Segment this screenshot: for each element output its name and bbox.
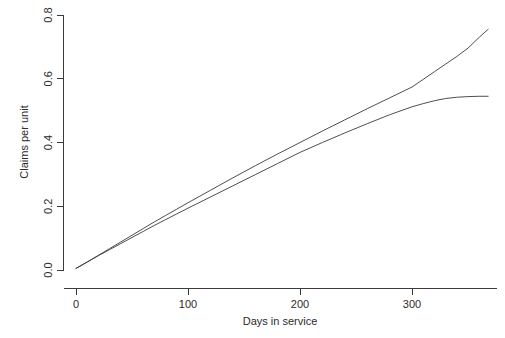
- x-tick-label: 0: [73, 298, 79, 310]
- y-tick-label: 0.0: [42, 262, 54, 277]
- y-tick-label: 0.8: [42, 7, 54, 22]
- chart-figure: 0.00.20.40.60.8 0100200300 Days in servi…: [0, 0, 505, 338]
- line-chart-canvas: 0.00.20.40.60.8 0100200300 Days in servi…: [0, 0, 505, 338]
- y-axis-title: Claims per unit: [18, 105, 30, 178]
- y-tick-label: 0.6: [42, 71, 54, 86]
- x-axis-tick-labels: 0100200300: [73, 298, 421, 310]
- x-tick-label: 300: [403, 298, 421, 310]
- x-tick-label: 200: [291, 298, 309, 310]
- series-line-lower: [76, 96, 488, 268]
- y-axis-ticks: [57, 15, 64, 270]
- x-axis-title: Days in service: [243, 315, 318, 327]
- y-tick-label: 0.4: [42, 135, 54, 150]
- x-axis-ticks: [76, 289, 412, 296]
- x-tick-label: 100: [179, 298, 197, 310]
- y-axis-tick-labels: 0.00.20.40.60.8: [42, 7, 54, 277]
- series-line-upper: [76, 29, 488, 268]
- y-tick-label: 0.2: [42, 199, 54, 214]
